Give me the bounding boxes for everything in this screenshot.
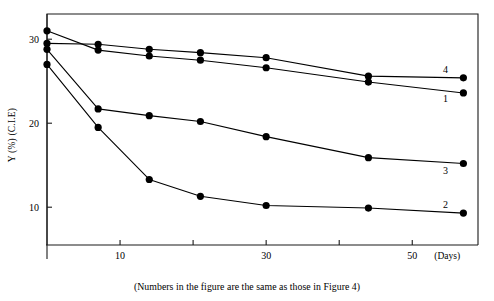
data-point-s1-7 bbox=[95, 47, 102, 54]
data-point-s3-44 bbox=[365, 154, 372, 161]
data-point-s3-21 bbox=[197, 118, 204, 125]
data-point-s1-30 bbox=[263, 64, 270, 71]
series-labels-layer: 4132 bbox=[443, 64, 448, 210]
data-point-s2-30 bbox=[263, 202, 270, 209]
data-point-s2-21 bbox=[197, 193, 204, 200]
series-line-4 bbox=[47, 43, 463, 77]
series-label-4: 4 bbox=[443, 64, 448, 75]
data-point-s4-14 bbox=[146, 46, 153, 53]
data-point-s1-0 bbox=[43, 27, 50, 34]
data-point-s1-57 bbox=[460, 89, 467, 96]
data-point-s3-14 bbox=[146, 112, 153, 119]
data-point-s3-7 bbox=[95, 105, 102, 112]
data-point-s4-30 bbox=[263, 54, 270, 61]
y-tick-label-30: 30 bbox=[29, 34, 39, 45]
series-layer bbox=[43, 27, 467, 216]
data-point-s1-21 bbox=[197, 57, 204, 64]
data-point-s3-0 bbox=[43, 46, 50, 53]
figure-caption: (Numbers in the figure are the same as t… bbox=[0, 281, 494, 292]
data-point-s2-0 bbox=[43, 61, 50, 68]
data-point-s1-14 bbox=[146, 52, 153, 59]
data-point-s4-57 bbox=[460, 74, 467, 81]
x-tick-label-50: 50 bbox=[407, 250, 417, 261]
series-label-1: 1 bbox=[443, 93, 448, 104]
x-tick-label-10: 10 bbox=[115, 250, 125, 261]
x-axis-unit-label: (Days) bbox=[434, 251, 460, 262]
line-chart-plot: 102030103050(Days) 4132 bbox=[0, 0, 494, 301]
series-line-1 bbox=[47, 31, 463, 93]
series-line-2 bbox=[47, 64, 463, 213]
data-point-s2-14 bbox=[146, 176, 153, 183]
series-label-3: 3 bbox=[443, 165, 448, 176]
data-point-s4-21 bbox=[197, 49, 204, 56]
data-point-s2-57 bbox=[460, 209, 467, 216]
x-tick-label-30: 30 bbox=[261, 250, 271, 261]
data-point-s3-30 bbox=[263, 133, 270, 140]
data-point-s3-57 bbox=[460, 160, 467, 167]
figure-container: Y (%) (C.I.E) 102030103050(Days) 4132 (N… bbox=[0, 0, 494, 301]
y-tick-label-20: 20 bbox=[29, 118, 39, 129]
data-point-s1-44 bbox=[365, 78, 372, 85]
y-tick-label-10: 10 bbox=[29, 202, 39, 213]
data-point-s2-44 bbox=[365, 204, 372, 211]
series-label-2: 2 bbox=[443, 199, 448, 210]
data-point-s2-7 bbox=[95, 124, 102, 131]
